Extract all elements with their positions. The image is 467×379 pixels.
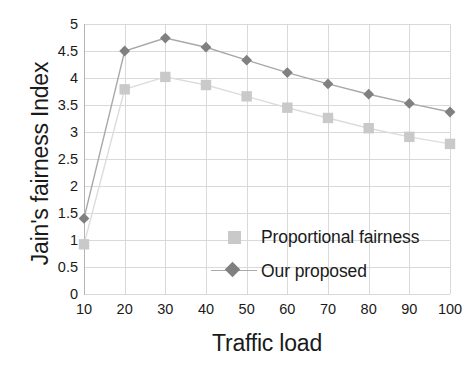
y-tick-label: 2.5 [22,152,78,167]
data-point [160,33,171,44]
y-tick-label: 1 [22,233,78,248]
data-point [201,80,211,90]
data-point [445,107,456,118]
data-point [282,103,292,113]
y-tick-label: 1.5 [22,206,78,221]
gridline-vertical [450,24,451,294]
data-point [363,123,373,133]
data-point [201,42,212,53]
legend-item-proportional-fairness: Proportional fairness [209,220,439,254]
series-line-our-proposed [84,38,450,218]
diamond-marker-icon [225,262,241,278]
legend-marker-diamond [209,256,261,286]
legend-label-our-proposed: Our proposed [261,261,367,282]
gridline-horizontal [84,294,450,295]
data-point [363,89,374,100]
chart-legend: Proportional fairness Our proposed [209,220,439,288]
y-tick-label: 3.5 [22,98,78,113]
data-point [241,91,251,101]
data-point [79,213,90,224]
x-tick-label: 100 [425,302,467,317]
plot-area: 00.511.522.533.544.55 102030405060708090… [84,24,450,294]
data-point [119,46,130,57]
data-point [119,84,129,94]
data-point [323,79,334,90]
legend-label-proportional-fairness: Proportional fairness [261,227,419,248]
data-point [445,139,455,149]
y-tick-label: 0 [22,287,78,302]
y-tick-label: 5 [22,17,78,32]
y-tick-label: 4 [22,71,78,86]
square-marker-icon [228,231,241,244]
data-point [323,113,333,123]
data-point [404,132,414,142]
y-tick-label: 0.5 [22,260,78,275]
legend-item-our-proposed: Our proposed [209,254,439,288]
y-tick-label: 3 [22,125,78,140]
x-axis-title: Traffic load [84,330,450,357]
data-point [160,72,170,82]
y-tick-label: 2 [22,179,78,194]
legend-marker-square [209,222,261,252]
data-point [404,98,415,109]
data-point [241,55,252,66]
y-tick-label: 4.5 [22,44,78,59]
data-point [79,239,89,249]
data-point [282,67,293,78]
